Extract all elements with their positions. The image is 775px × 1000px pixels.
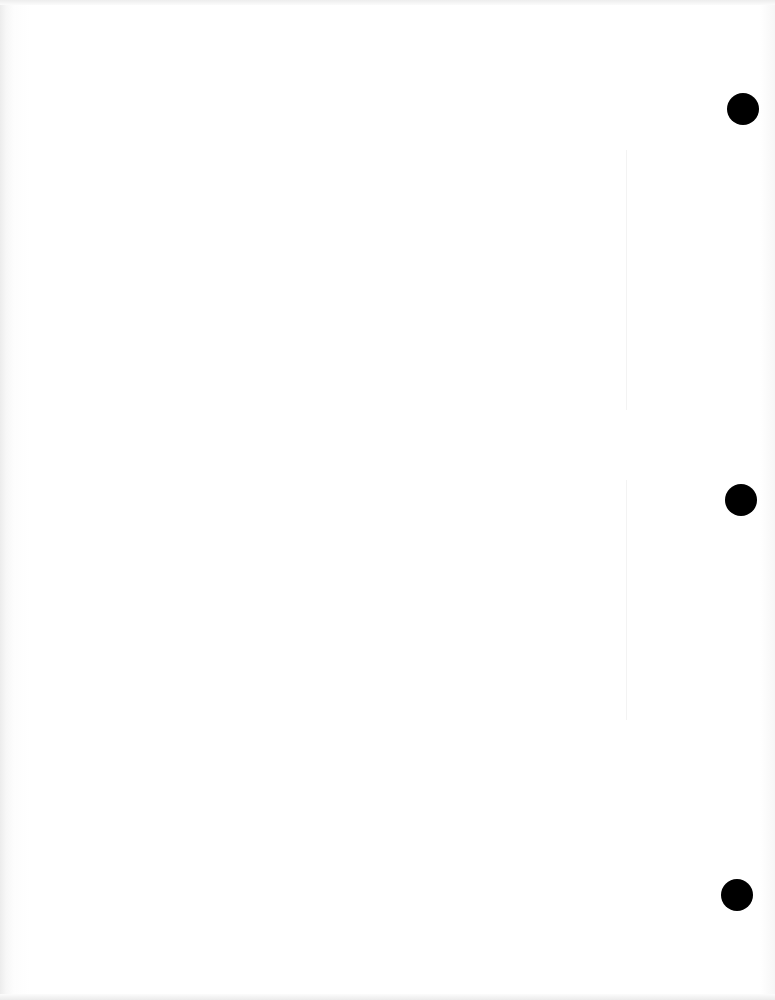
- blank-paper-page: [0, 0, 775, 1000]
- punch-hole-top: [727, 93, 759, 125]
- punch-hole-middle: [725, 484, 757, 516]
- faint-margin-line: [626, 480, 627, 720]
- page-bottom-edge: [0, 994, 775, 1000]
- punch-hole-bottom: [721, 879, 753, 911]
- faint-margin-line: [626, 150, 627, 410]
- page-top-edge: [0, 0, 775, 5]
